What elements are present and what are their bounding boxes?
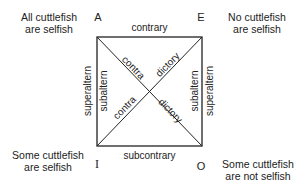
label-right-superaltern: superaltern [204, 66, 215, 116]
square-of-opposition: contrary subcontrary superaltern subalte… [0, 0, 297, 182]
label-diag-ie-dictory: dictory [153, 50, 181, 79]
label-left-superaltern: superaltern [82, 66, 93, 116]
label-diag-ao-contra: contra [120, 54, 148, 82]
label-right-subaltern: subaltern [189, 70, 200, 111]
label-subcontrary: subcontrary [123, 150, 175, 161]
label-diag-ao-dictory: dictory [156, 96, 184, 125]
label-contrary: contrary [131, 22, 167, 33]
label-left-subaltern: subaltern [98, 70, 109, 111]
